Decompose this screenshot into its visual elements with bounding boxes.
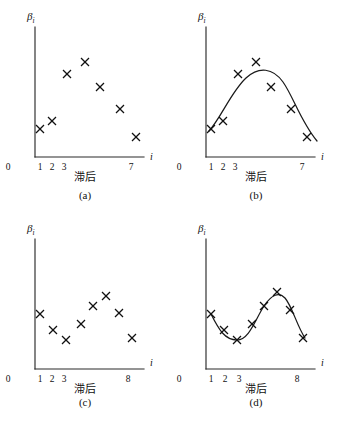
figure-root: βi i 0 1 2 3 7 — [0, 0, 341, 428]
plot-area-c: βi i 0 1 2 3 8 — [0, 214, 170, 384]
y-axis-label: βi — [26, 10, 35, 25]
data-markers-c — [36, 292, 136, 344]
y-axis-label: βi — [197, 222, 206, 237]
chart-panel-d: βi i 0 1 2 3 8 — [171, 214, 341, 428]
data-point — [252, 58, 260, 66]
plot-area-d: βi i 0 1 2 3 8 — [171, 214, 341, 384]
chart-panel-c: βi i 0 1 2 3 8 — [0, 214, 170, 428]
data-markers-d — [207, 288, 307, 344]
y-axis-label: βi — [197, 10, 206, 25]
data-point — [207, 310, 215, 318]
x-axis-caption-cn: 滞后 — [171, 380, 341, 396]
data-point — [207, 125, 215, 133]
chart-panel-b: βi i 0 1 2 3 7 — [171, 0, 341, 214]
data-point — [81, 58, 89, 66]
axes-c — [35, 239, 144, 369]
data-point — [36, 310, 44, 318]
data-point — [287, 105, 295, 113]
data-point — [220, 326, 228, 334]
chart-panel-a: βi i 0 1 2 3 7 — [0, 0, 170, 214]
data-markers-a — [36, 58, 140, 141]
x-axis-label: i — [150, 151, 153, 162]
data-point — [115, 309, 123, 317]
panel-caption: (d) — [171, 396, 341, 408]
x-axis-label: i — [150, 357, 153, 368]
axes-b — [206, 27, 315, 157]
x-axis-caption-cn: 滞后 — [171, 168, 341, 184]
axes-a — [35, 27, 144, 157]
plot-area-b: βi i 0 1 2 3 7 — [171, 0, 341, 170]
data-point — [267, 83, 275, 91]
data-point — [219, 117, 227, 125]
data-point — [116, 105, 124, 113]
data-point — [102, 292, 110, 300]
data-point — [303, 133, 311, 141]
x-axis-label: i — [321, 357, 324, 368]
data-point — [96, 83, 104, 91]
plot-area-a: βi i 0 1 2 3 7 — [0, 0, 170, 170]
data-point — [128, 334, 136, 342]
panel-caption: (a) — [0, 189, 170, 201]
x-axis-caption-cn: 滞后 — [0, 168, 170, 184]
panel-caption: (b) — [171, 189, 341, 201]
plot-svg-d: βi i 0 1 2 3 8 — [171, 214, 341, 384]
data-point — [48, 117, 56, 125]
axes-d — [206, 239, 315, 369]
fit-curve — [211, 295, 305, 340]
plot-svg-c: βi i 0 1 2 3 8 — [0, 214, 170, 384]
data-point — [77, 320, 85, 328]
y-axis-label: βi — [26, 222, 35, 237]
data-point — [260, 302, 268, 310]
data-point — [49, 326, 57, 334]
x-axis-caption-cn: 滞后 — [0, 380, 170, 396]
plot-svg-b: βi i 0 1 2 3 7 — [171, 0, 341, 170]
x-axis-label: i — [321, 151, 324, 162]
fit-curve — [209, 70, 317, 141]
panel-caption: (c) — [0, 396, 170, 408]
data-point — [89, 302, 97, 310]
data-point — [234, 70, 242, 78]
data-point — [62, 336, 70, 344]
data-point — [36, 125, 44, 133]
plot-svg-a: βi i 0 1 2 3 7 — [0, 0, 170, 170]
data-point — [132, 133, 140, 141]
data-point — [63, 70, 71, 78]
